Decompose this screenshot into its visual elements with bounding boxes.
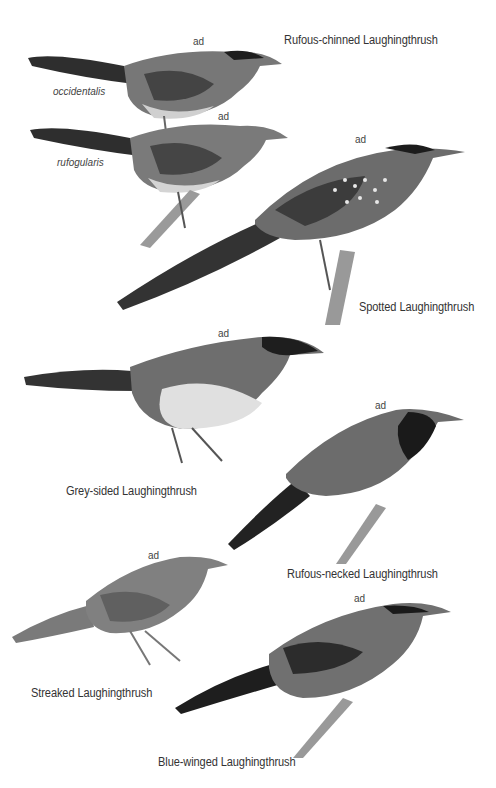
bird-illustration-spotted-laughingthrush [115, 140, 470, 325]
species-name-grey-sided: Grey-sided Laughingthrush [66, 484, 197, 498]
age-label: ad [354, 593, 365, 604]
age-label: ad [218, 111, 229, 122]
bird-illustration-rufous-necked-laughingthrush [226, 404, 466, 564]
species-name-spotted: Spotted Laughingthrush [359, 300, 474, 314]
age-label: ad [193, 36, 204, 47]
bird-illustration-blue-winged-laughingthrush [173, 598, 453, 758]
species-name-blue-winged: Blue-winged Laughingthrush [158, 755, 296, 769]
age-label: ad [148, 550, 159, 561]
subspecies-label-occidentalis: occidentalis [53, 86, 105, 97]
age-label: ad [355, 134, 366, 145]
age-label: ad [218, 328, 229, 339]
age-label: ad [375, 400, 386, 411]
species-name-rufous-necked: Rufous-necked Laughingthrush [287, 567, 438, 581]
subspecies-label-rufogularis: rufogularis [57, 157, 104, 168]
species-name-streaked: Streaked Laughingthrush [31, 686, 152, 700]
species-name-rufous-chinned: Rufous-chinned Laughingthrush [284, 33, 438, 47]
